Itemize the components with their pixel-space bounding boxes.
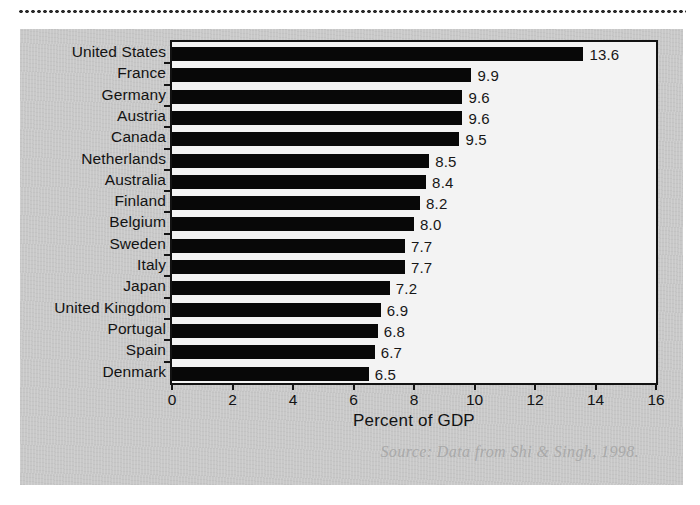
bar-row: 9.6 <box>172 90 656 104</box>
category-axis-labels: United StatesFranceGermanyAustriaCanadaN… <box>20 40 166 385</box>
y-axis-tick <box>164 84 171 86</box>
bar-value-label: 7.7 <box>411 259 432 276</box>
bar <box>172 303 381 317</box>
bar-row: 8.4 <box>172 175 656 189</box>
dotted-divider-rule <box>18 9 686 14</box>
y-axis-tick <box>164 233 171 235</box>
bar-value-label: 7.7 <box>411 237 432 254</box>
category-label-spain: Spain <box>126 341 166 359</box>
y-axis-tick <box>164 297 171 299</box>
bar <box>172 111 462 125</box>
category-label-sweden: Sweden <box>109 235 166 253</box>
x-axis-tick <box>595 383 597 390</box>
category-label-united-kingdom: United Kingdom <box>54 299 166 317</box>
bar-row: 6.8 <box>172 324 656 338</box>
bar-value-label: 9.5 <box>465 131 486 148</box>
x-axis-tick-label: 0 <box>168 391 177 409</box>
bar <box>172 196 420 210</box>
bar-value-label: 13.6 <box>589 46 619 63</box>
bar-row: 6.7 <box>172 345 656 359</box>
y-axis-tick <box>164 275 171 277</box>
bar-value-label: 6.9 <box>387 301 408 318</box>
bar-row: 8.5 <box>172 154 656 168</box>
bar <box>172 175 426 189</box>
bar-value-label: 6.8 <box>384 322 405 339</box>
bar <box>172 68 471 82</box>
category-label-france: France <box>117 64 166 82</box>
bar <box>172 90 462 104</box>
bar-value-label: 9.9 <box>477 67 498 84</box>
y-axis-tick <box>164 62 171 64</box>
bar <box>172 47 583 61</box>
bar-row: 8.2 <box>172 196 656 210</box>
x-axis-tick <box>292 383 294 390</box>
category-label-portugal: Portugal <box>107 320 166 338</box>
bar-row: 9.6 <box>172 111 656 125</box>
y-axis-tick <box>164 148 171 150</box>
x-axis-tick-label: 14 <box>587 391 604 409</box>
category-label-belgium: Belgium <box>109 213 166 231</box>
x-axis-tick-label: 16 <box>647 391 664 409</box>
bar-row: 6.5 <box>172 367 656 381</box>
bar <box>172 281 390 295</box>
bar-value-label: 9.6 <box>468 88 489 105</box>
y-axis-tick <box>164 211 171 213</box>
source-note: Source: Data from Shi & Singh, 1998. <box>380 443 639 461</box>
x-axis-tick <box>474 383 476 390</box>
category-label-italy: Italy <box>137 256 166 274</box>
bar-row: 6.9 <box>172 303 656 317</box>
bar-series: 13.69.99.69.69.58.58.48.28.07.77.77.26.9… <box>172 42 656 383</box>
bar-value-label: 8.4 <box>432 173 453 190</box>
bar-value-label: 8.2 <box>426 195 447 212</box>
x-axis-tick <box>534 383 536 390</box>
x-axis-tick-label: 12 <box>526 391 543 409</box>
x-axis-tick <box>171 383 173 390</box>
x-axis-tick-label: 10 <box>466 391 483 409</box>
bar <box>172 132 459 146</box>
category-label-denmark: Denmark <box>102 363 166 381</box>
bar <box>172 239 405 253</box>
y-axis-tick <box>164 169 171 171</box>
figure-panel: United StatesFranceGermanyAustriaCanadaN… <box>20 29 683 485</box>
category-label-germany: Germany <box>102 86 166 104</box>
bar-row: 9.5 <box>172 132 656 146</box>
y-axis-tick <box>164 318 171 320</box>
y-axis-tick <box>164 190 171 192</box>
bar-value-label: 9.6 <box>468 109 489 126</box>
bar-value-label: 8.0 <box>420 216 441 233</box>
plot-area: 13.69.99.69.69.58.58.48.28.07.77.77.26.9… <box>170 40 658 385</box>
y-axis-tick <box>164 105 171 107</box>
bar-row: 13.6 <box>172 47 656 61</box>
bar <box>172 324 378 338</box>
bar <box>172 345 375 359</box>
bar <box>172 367 369 381</box>
category-label-finland: Finland <box>114 192 166 210</box>
x-axis-tick-label: 2 <box>228 391 237 409</box>
bar <box>172 260 405 274</box>
x-axis-tick <box>232 383 234 390</box>
x-axis-tick <box>353 383 355 390</box>
bar-value-label: 7.2 <box>396 280 417 297</box>
x-axis-title: Percent of GDP <box>170 411 658 431</box>
bar-row: 7.7 <box>172 239 656 253</box>
bar-row: 7.2 <box>172 281 656 295</box>
bar <box>172 154 429 168</box>
bar-row: 9.9 <box>172 68 656 82</box>
x-axis-tick <box>413 383 415 390</box>
bar-row: 8.0 <box>172 217 656 231</box>
bar-value-label: 6.5 <box>375 365 396 382</box>
y-axis-tick <box>164 339 171 341</box>
bar <box>172 217 414 231</box>
bar-value-label: 6.7 <box>381 344 402 361</box>
category-label-netherlands: Netherlands <box>81 150 166 168</box>
x-axis-tick-label: 6 <box>349 391 358 409</box>
x-axis-tick <box>655 383 657 390</box>
category-label-united-states: United States <box>72 43 166 61</box>
category-label-canada: Canada <box>111 128 166 146</box>
bar-row: 7.7 <box>172 260 656 274</box>
x-axis-tick-label: 8 <box>410 391 419 409</box>
y-axis-tick <box>164 361 171 363</box>
x-axis-tick-label: 4 <box>289 391 298 409</box>
bar-value-label: 8.5 <box>435 152 456 169</box>
category-label-japan: Japan <box>123 277 166 295</box>
